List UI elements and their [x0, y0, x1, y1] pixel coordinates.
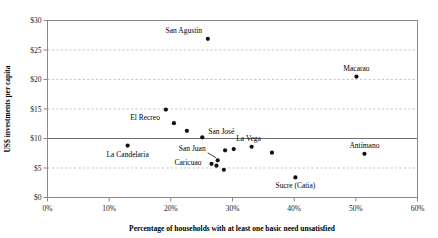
y-tick-label: $5 [34, 164, 42, 173]
data-point [126, 143, 130, 147]
point-label: San Agustin [166, 26, 203, 35]
data-point [222, 168, 226, 172]
y-tick-label: $20 [30, 75, 42, 84]
point-label: Sucre (Catia) [276, 181, 316, 190]
data-point [250, 145, 254, 149]
x-tick-label: 0% [43, 204, 53, 213]
chart-canvas: $0$5$10$15$20$25$30 0%10%20%30%40%50%60%… [0, 0, 438, 238]
data-point [223, 148, 227, 152]
point-label: La Candelaria [107, 150, 150, 159]
data-point [293, 175, 297, 179]
y-axis-ticks: $0$5$10$15$20$25$30 [30, 16, 47, 202]
data-point [362, 152, 366, 156]
data-point [354, 74, 358, 78]
y-tick-label: $30 [30, 16, 42, 25]
x-tick-label: 60% [411, 204, 425, 213]
point-labels-group: San AgustinMacaraoEl RecreoSan JoséLa Ca… [107, 26, 380, 191]
point-label: San Juan [179, 144, 206, 153]
x-tick-label: 50% [349, 204, 363, 213]
data-point [185, 129, 189, 133]
x-tick-label: 20% [164, 204, 178, 213]
y-tick-label: $0 [34, 193, 42, 202]
y-axis-title: US$ investments per capita [3, 65, 12, 152]
point-label: Macarao [343, 64, 369, 73]
x-axis-title: Percentage of households with at least o… [129, 224, 336, 233]
x-axis-ticks: 0%10%20%30%40%50%60% [43, 198, 425, 213]
data-point [270, 151, 274, 155]
y-tick-label: $25 [30, 46, 42, 55]
data-point [164, 107, 168, 111]
data-point [200, 135, 204, 139]
data-point [216, 158, 220, 162]
data-point [214, 164, 218, 168]
x-tick-label: 10% [102, 204, 116, 213]
data-point [232, 147, 236, 151]
point-label: Caricuao [174, 158, 201, 167]
point-label: San José [208, 127, 235, 136]
data-point [172, 121, 176, 125]
data-points-group [126, 37, 367, 180]
label-leader-line [208, 153, 217, 158]
x-tick-label: 30% [226, 204, 240, 213]
point-label: La Vega [236, 134, 261, 143]
point-label: El Recreo [130, 113, 160, 122]
y-tick-label: $10 [30, 134, 42, 143]
y-tick-label: $15 [30, 105, 42, 114]
x-tick-label: 40% [287, 204, 301, 213]
data-point [206, 37, 210, 41]
point-label: Antímano [349, 141, 379, 150]
data-point [209, 162, 213, 166]
scatter-chart-figure: $0$5$10$15$20$25$30 0%10%20%30%40%50%60%… [0, 0, 438, 238]
